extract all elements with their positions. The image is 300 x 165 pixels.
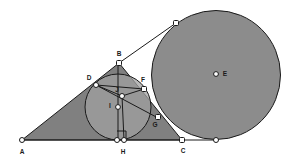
label-E: E — [223, 70, 228, 77]
point-marker-H[interactable] — [122, 138, 127, 143]
label-B: B — [117, 50, 122, 57]
incircle-center-marker[interactable] — [116, 105, 121, 110]
label-I: I — [109, 102, 111, 109]
point-marker-J[interactable] — [120, 94, 125, 99]
point-marker-H-secondary[interactable] — [115, 138, 120, 143]
geometry-canvas: A B C D F J G H I E — [0, 0, 300, 165]
point-marker-B[interactable] — [117, 61, 122, 66]
point-marker-A[interactable] — [20, 138, 25, 143]
label-D: D — [87, 74, 92, 81]
label-F: F — [141, 76, 145, 83]
point-marker-C[interactable] — [180, 138, 185, 143]
geometry-diagram: A B C D F J G H I E — [0, 0, 300, 165]
label-A: A — [20, 148, 25, 155]
label-G: G — [152, 121, 157, 128]
point-marker-tangent-bottom[interactable] — [214, 138, 219, 143]
point-marker-F[interactable] — [142, 87, 147, 92]
point-marker-G[interactable] — [156, 115, 161, 120]
label-H: H — [121, 148, 126, 155]
label-J: J — [115, 86, 119, 93]
point-marker-tangent-top[interactable] — [174, 21, 179, 26]
label-C: C — [181, 147, 186, 154]
excircle-center-marker[interactable] — [214, 72, 219, 77]
point-marker-D[interactable] — [94, 83, 99, 88]
